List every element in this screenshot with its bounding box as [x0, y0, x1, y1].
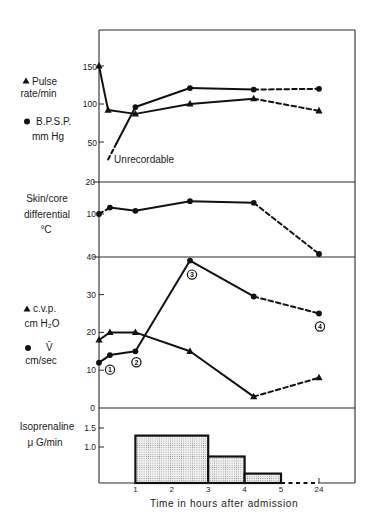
series-segment — [135, 104, 190, 114]
legend-pulse-label: Pulse — [32, 76, 57, 87]
legend-cvp-label: c.v.p. — [33, 303, 56, 314]
y-tick-label: 40 — [87, 252, 97, 262]
panel-data-1 — [96, 198, 322, 257]
series-b-p-s-p-mm-hg: Unrecordable — [108, 85, 322, 165]
series-c-v-p-cm-h-o — [95, 328, 322, 399]
circle-data-marker — [133, 208, 139, 214]
skin-label-line2: differential — [24, 209, 70, 220]
isoprenaline-bar — [208, 457, 244, 484]
series-segment — [254, 99, 319, 111]
circle-data-marker — [251, 87, 257, 93]
y-tick-label: 20 — [87, 327, 97, 337]
circle-data-marker — [251, 294, 257, 300]
circle-marker-icon — [25, 345, 31, 351]
series-segment — [254, 378, 319, 397]
triangle-marker-icon — [24, 306, 31, 312]
y-tick-label: 100 — [83, 99, 97, 109]
y-tick-label: 0 — [90, 403, 95, 413]
series-segment — [190, 99, 254, 104]
y-tick-label: 1.0 — [84, 442, 96, 452]
panel-data-2: 1234 — [95, 258, 324, 400]
clinical-time-course-figure: 150 100 50 Pulse rate/min B.P.S.P. mm Hg… — [0, 0, 374, 530]
series-segment — [254, 296, 319, 313]
panel-skin-core: 20 10 Skin/core differential °C — [24, 177, 104, 235]
legend-bpsp-label: B.P.S.P. — [36, 116, 71, 127]
triangle-data-marker — [105, 106, 112, 113]
x-axis-title: Time in hours after admission — [150, 498, 298, 509]
isoprenaline-bar — [135, 436, 208, 483]
isoprenaline-bar — [245, 474, 281, 483]
series-segment — [135, 88, 190, 107]
isoprenaline-label: Isoprenaline — [20, 421, 75, 432]
circle-data-marker — [187, 85, 193, 91]
x-axis: 1 2 3 4 5 24 Time in hours after admissi… — [133, 485, 324, 509]
circle-data-marker — [251, 200, 257, 206]
panel-pulse-bpsp: 150 100 50 Pulse rate/min B.P.S.P. mm Hg — [20, 62, 104, 148]
circle-data-marker — [133, 104, 139, 110]
circle-data-marker — [107, 205, 113, 211]
series-segment — [135, 261, 190, 352]
x-tick-label: 1 — [133, 485, 138, 494]
chart-frame — [99, 30, 355, 483]
legend-velocity-label: V̄ — [46, 341, 53, 353]
series-v-cm-sec: 1234 — [96, 258, 325, 375]
y-tick-label: 1.5 — [84, 423, 96, 433]
point-label: 2 — [134, 359, 138, 366]
triangle-marker-icon — [23, 78, 30, 84]
series-segment — [99, 66, 108, 110]
legend-bpsp-unit: mm Hg — [32, 131, 64, 142]
series-segment — [190, 351, 254, 396]
panel-data-3 — [135, 436, 319, 483]
panel-cvp-velocity: 40 30 20 10 0 c.v.p. cm H₂O V̄ cm/sec — [24, 252, 105, 413]
y-tick-label: 30 — [87, 290, 97, 300]
y-tick-label: 10 — [87, 365, 97, 375]
y-tick-label: 20 — [86, 177, 96, 187]
series-skin-core-differential-c — [96, 198, 322, 257]
circle-data-marker — [133, 348, 139, 354]
data-layer: Unrecordable1234 — [95, 62, 324, 483]
legend-pulse-unit: rate/min — [20, 88, 56, 99]
circle-data-marker — [316, 251, 322, 257]
circle-data-marker — [187, 258, 193, 264]
circle-marker-icon — [24, 119, 30, 125]
y-tick-label: 50 — [88, 138, 98, 148]
point-label: 1 — [108, 366, 112, 373]
panel-data-0: Unrecordable — [95, 62, 322, 165]
series-segment — [254, 203, 319, 254]
x-tick-label: 5 — [279, 485, 284, 494]
annotation-unrecordable: Unrecordable — [114, 154, 174, 165]
point-label: 3 — [190, 271, 194, 278]
point-label: 4 — [318, 323, 322, 330]
circle-data-marker — [107, 352, 113, 358]
series-segment — [110, 351, 135, 355]
panel-isoprenaline: 1.5 1.0 Isoprenaline μ G/min — [20, 421, 104, 452]
y-tick-label: 150 — [83, 62, 97, 72]
series-segment — [254, 89, 319, 90]
circle-data-marker — [316, 311, 322, 317]
legend-velocity-unit: cm/sec — [25, 355, 57, 366]
y-tick-label: 10 — [87, 209, 97, 219]
triangle-data-marker — [315, 374, 322, 381]
x-tick-label: 3 — [206, 485, 211, 494]
series-segment — [190, 261, 254, 297]
x-tick-label: 4 — [242, 485, 247, 494]
legend-cvp-unit: cm H₂O — [25, 318, 60, 329]
skin-label-line1: Skin/core — [26, 193, 68, 204]
x-tick-label: 2 — [170, 485, 175, 494]
series-segment — [135, 332, 190, 351]
circle-data-marker — [187, 198, 193, 204]
series-segment — [110, 208, 135, 211]
x-tick-label: 24 — [315, 485, 324, 494]
isoprenaline-unit: μ G/min — [27, 437, 62, 448]
circle-data-marker — [96, 360, 102, 366]
circle-data-marker — [316, 86, 322, 92]
series-segment — [135, 201, 190, 211]
series-segment — [190, 88, 254, 90]
series-segment — [190, 201, 254, 203]
circle-data-marker — [96, 211, 102, 217]
skin-label-unit: °C — [40, 224, 51, 235]
